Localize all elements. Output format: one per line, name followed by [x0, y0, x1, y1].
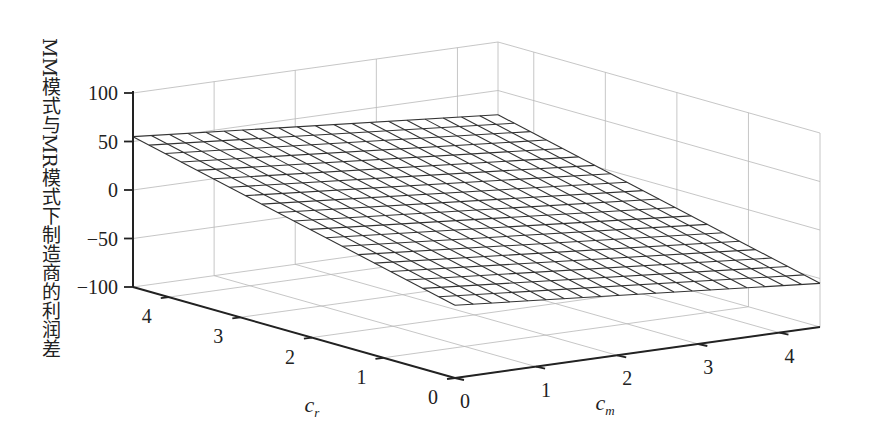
cr-tick [447, 378, 455, 379]
cm-axis-label: cm [595, 390, 614, 418]
cm-tick [536, 367, 545, 369]
cm-tick-label: 3 [703, 356, 713, 378]
cr-tick [375, 358, 383, 359]
cr-tick [232, 317, 240, 318]
cr-tick-label: 2 [285, 346, 295, 368]
cr-axis-label: cr [305, 392, 321, 420]
z-tick-label: −100 [77, 276, 118, 298]
cm-tick [455, 378, 464, 380]
cm-tick [779, 333, 788, 335]
cm-tick-label: 0 [460, 390, 470, 412]
cr-tick [304, 338, 312, 339]
grid-line [133, 42, 498, 93]
z-tick-label: 50 [98, 131, 118, 153]
cm-tick [617, 355, 626, 357]
grid-line [498, 42, 820, 133]
cr-tick-label: 0 [428, 386, 438, 408]
cr-tick-label: 3 [213, 325, 223, 347]
cm-tick [698, 344, 707, 346]
cm-tick-label: 1 [541, 379, 551, 401]
cm-tick-label: 4 [784, 345, 794, 367]
surface-mesh [133, 115, 820, 306]
z-tick-label: 0 [108, 179, 118, 201]
surface-plot: 100500−50−1004321001234 crcm [0, 0, 885, 441]
cm-axis [455, 327, 820, 378]
cr-tick [161, 297, 169, 298]
cm-tick-label: 2 [622, 367, 632, 389]
z-tick-label: 100 [88, 82, 118, 104]
cr-tick-label: 1 [356, 366, 366, 388]
z-tick-label: −50 [87, 228, 118, 250]
cr-tick-label: 4 [142, 305, 152, 327]
grid-line [383, 307, 748, 358]
